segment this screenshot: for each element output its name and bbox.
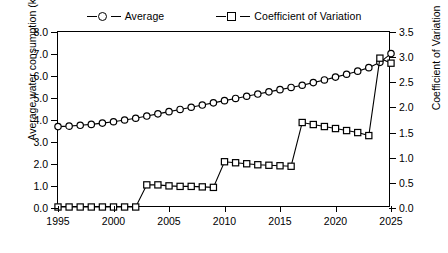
data-point-circle: [277, 86, 283, 92]
y-axis-right-tick: [389, 82, 396, 83]
x-axis-tick-label: 2015: [268, 215, 291, 227]
y-axis-left-tick: [51, 186, 58, 187]
data-point-square: [144, 182, 150, 188]
data-point-square: [88, 204, 94, 210]
data-point-circle: [155, 111, 161, 117]
legend-entry-average: Average: [87, 10, 165, 22]
x-axis-tick: [280, 206, 281, 212]
legend-label-coefficient-of-variation: Coefficient of Variation: [254, 10, 361, 22]
data-point-circle: [88, 121, 94, 127]
x-axis-tick: [391, 206, 392, 212]
y-axis-right-tick-label: 2.0: [399, 101, 414, 113]
series-line: [58, 58, 391, 207]
series-line: [58, 54, 391, 127]
y-axis-right-tick: [389, 32, 396, 33]
circle-marker-icon: [87, 11, 121, 21]
x-axis-tick: [114, 206, 115, 212]
data-point-circle: [232, 95, 238, 101]
data-point-square: [166, 183, 172, 189]
data-point-square: [77, 204, 83, 210]
data-point-circle: [55, 123, 61, 129]
series-average: [55, 50, 394, 129]
square-marker-icon: [216, 11, 250, 21]
data-point-circle: [343, 71, 349, 77]
x-axis-tick-label: 2000: [102, 215, 125, 227]
data-point-circle: [244, 93, 250, 99]
data-point-square: [310, 121, 316, 127]
y-axis-right-tick: [389, 183, 396, 184]
x-axis-tick-label: 2025: [379, 215, 402, 227]
data-point-circle: [266, 89, 272, 95]
data-point-square: [233, 160, 239, 166]
x-axis-tick-label: 2005: [157, 215, 180, 227]
plot-area: 0.01.02.03.04.05.06.07.08.00.00.51.01.52…: [57, 31, 390, 207]
data-point-square: [155, 182, 161, 188]
y-axis-right-tick-label: 3.0: [399, 51, 414, 63]
legend-entry-coefficient-of-variation: Coefficient of Variation: [216, 10, 361, 22]
data-point-square: [99, 204, 105, 210]
series-coefficient-of-variation: [55, 55, 394, 210]
y-axis-right-tick: [389, 107, 396, 108]
data-point-square: [377, 55, 383, 61]
data-point-square: [122, 204, 128, 210]
data-point-circle: [99, 120, 105, 126]
data-point-circle: [199, 102, 205, 108]
data-point-circle: [110, 119, 116, 125]
data-point-square: [277, 163, 283, 169]
data-point-square: [244, 161, 250, 167]
y-axis-left-tick: [51, 98, 58, 99]
chart-legend: Average Coefficient of Variation: [0, 6, 448, 26]
data-point-square: [288, 163, 294, 169]
data-point-square: [255, 162, 261, 168]
y-axis-right-tick: [389, 57, 396, 58]
data-point-circle: [255, 91, 261, 97]
data-point-square: [177, 183, 183, 189]
y-axis-right-tick: [389, 158, 396, 159]
legend-label-average: Average: [125, 10, 165, 22]
data-point-circle: [366, 64, 372, 70]
series-layer: [58, 32, 391, 208]
data-point-square: [199, 184, 205, 190]
x-axis-tick: [169, 206, 170, 212]
data-point-square: [366, 132, 372, 138]
y-axis-right-tick-label: 1.5: [399, 127, 414, 139]
data-point-square: [221, 159, 227, 165]
y-axis-left-tick-label: 6.0: [33, 70, 48, 82]
data-point-square: [355, 129, 361, 135]
y-axis-left-tick: [51, 120, 58, 121]
data-point-circle: [388, 50, 394, 56]
y-axis-right-tick-label: 3.5: [399, 26, 414, 38]
y-axis-left-tick-label: 2.0: [33, 158, 48, 170]
data-point-circle: [133, 115, 139, 121]
data-point-circle: [188, 104, 194, 110]
data-point-circle: [321, 77, 327, 83]
y-axis-right-tick-label: 0.0: [399, 202, 414, 214]
y-axis-right-title: Coefficient of Variation: [430, 0, 442, 158]
water-consumption-chart: Average Coefficient of Variation Average…: [0, 0, 448, 253]
y-axis-left-tick: [51, 54, 58, 55]
x-axis-tick: [58, 206, 59, 212]
data-point-circle: [310, 79, 316, 85]
y-axis-right-tick-label: 1.0: [399, 152, 414, 164]
y-axis-left-tick-label: 1.0: [33, 180, 48, 192]
y-axis-left-tick-label: 4.0: [33, 114, 48, 126]
data-point-square: [210, 184, 216, 190]
y-axis-left-tick-label: 0.0: [33, 202, 48, 214]
data-point-square: [188, 183, 194, 189]
data-point-square: [321, 123, 327, 129]
data-point-circle: [299, 82, 305, 88]
data-point-square: [133, 204, 139, 210]
x-axis-tick-label: 2010: [213, 215, 236, 227]
x-axis-tick-label: 2020: [324, 215, 347, 227]
data-point-circle: [121, 117, 127, 123]
y-axis-left-tick: [51, 142, 58, 143]
data-point-circle: [166, 108, 172, 114]
data-point-square: [66, 204, 72, 210]
y-axis-left-tick: [51, 32, 58, 33]
x-axis-tick: [336, 206, 337, 212]
y-axis-right-tick-label: 2.5: [399, 76, 414, 88]
y-axis-left-tick: [51, 76, 58, 77]
data-point-circle: [177, 106, 183, 112]
y-axis-left-tick: [51, 164, 58, 165]
y-axis-left-tick: [51, 208, 58, 209]
